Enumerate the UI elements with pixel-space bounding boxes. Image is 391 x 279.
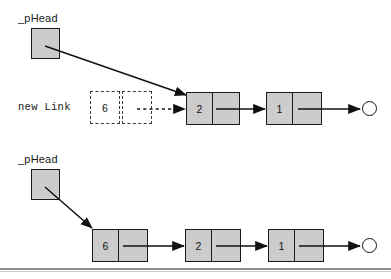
panel-after-insertion: _pHead 6 2 1	[0, 140, 391, 279]
node-top-0-data-cell: 2	[187, 93, 213, 124]
node-bottom-2: 1	[268, 229, 324, 262]
new-link-label: new Link	[18, 101, 71, 113]
node-top-1: 1	[266, 92, 322, 125]
node-bottom-1-next-cell	[212, 230, 240, 261]
node-bottom-1-data-cell: 2	[186, 230, 212, 261]
null-terminator-bottom	[362, 238, 377, 253]
page-divider-rule-shadow	[0, 271, 391, 272]
node-bottom-2-data-cell: 1	[269, 230, 295, 261]
node-top-1-data-cell: 1	[267, 93, 293, 124]
pending-node-dashed: 6	[90, 91, 152, 124]
node-top-0-next-cell	[213, 93, 239, 124]
node-top-1-next-cell	[293, 93, 321, 124]
page-divider-rule	[0, 268, 391, 270]
null-terminator-top	[362, 101, 377, 116]
pending-node-data-cell: 6	[90, 91, 120, 124]
pointer-label-phead-top: _pHead	[18, 12, 58, 24]
node-bottom-1: 2	[185, 229, 241, 262]
linked-list-insertion-diagram: _pHead new Link 6 2 1 _pHead 6 2	[0, 0, 391, 279]
phead-box-bottom	[31, 169, 60, 200]
node-top-0: 2	[186, 92, 240, 125]
pointer-label-phead-bottom: _pHead	[18, 153, 58, 165]
node-bottom-2-next-cell	[295, 230, 323, 261]
node-bottom-0-data-cell: 6	[93, 230, 119, 261]
node-bottom-0: 6	[92, 229, 148, 262]
phead-box-top	[31, 28, 60, 59]
node-bottom-0-next-cell	[119, 230, 147, 261]
panel-before-insertion: _pHead new Link 6 2 1	[0, 0, 391, 140]
pending-node-next-cell	[122, 91, 152, 124]
